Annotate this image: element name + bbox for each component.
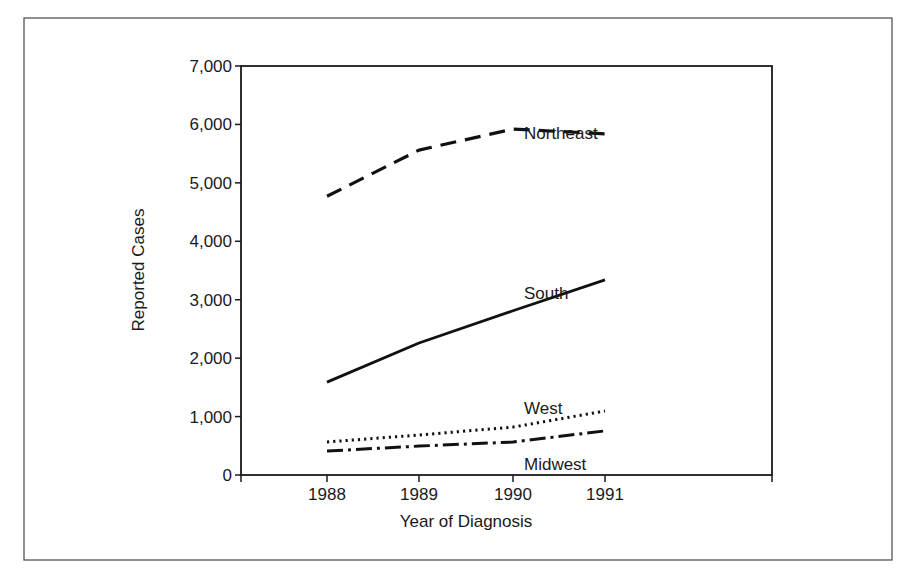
y-axis: 01,0002,0003,0004,0005,0006,0007,000 bbox=[189, 57, 241, 485]
y-tick-label: 5,000 bbox=[189, 174, 232, 193]
y-tick-label: 4,000 bbox=[189, 232, 232, 251]
y-tick-label: 0 bbox=[223, 466, 232, 485]
plot-area bbox=[241, 66, 772, 475]
label-northeast: Northeast bbox=[524, 124, 598, 143]
y-axis-label: Reported Cases bbox=[129, 209, 148, 332]
label-midwest: Midwest bbox=[524, 455, 587, 474]
x-tick-label: 1991 bbox=[586, 485, 624, 504]
outer-frame bbox=[24, 18, 892, 560]
label-west: West bbox=[524, 399, 563, 418]
y-tick-label: 1,000 bbox=[189, 408, 232, 427]
y-tick-label: 6,000 bbox=[189, 115, 232, 134]
x-tick-label: 1988 bbox=[308, 485, 346, 504]
x-tick-label: 1989 bbox=[400, 485, 438, 504]
y-tick-label: 2,000 bbox=[189, 349, 232, 368]
y-tick-label: 7,000 bbox=[189, 57, 232, 76]
y-tick-label: 3,000 bbox=[189, 291, 232, 310]
series-midwest bbox=[327, 431, 605, 451]
x-tick-label: 1990 bbox=[494, 485, 532, 504]
label-south: South bbox=[524, 284, 568, 303]
x-axis: 1988198919901991 bbox=[241, 475, 772, 504]
chart-figure: 01,0002,0003,0004,0005,0006,0007,000 198… bbox=[0, 0, 911, 582]
x-axis-label: Year of Diagnosis bbox=[400, 512, 533, 531]
